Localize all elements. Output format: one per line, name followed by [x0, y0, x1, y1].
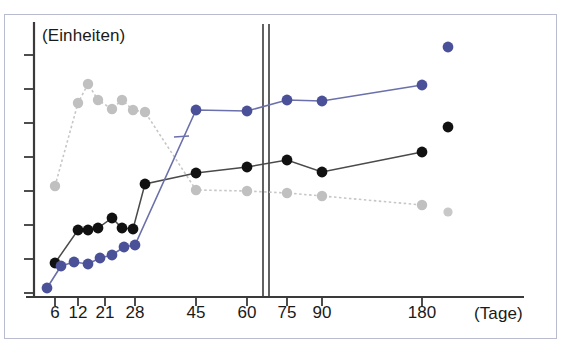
blue-series-error-bar: [174, 136, 189, 137]
black-series-points: [50, 147, 428, 269]
y-axis-label: (Einheiten): [42, 26, 125, 46]
black-series-line: [55, 152, 422, 263]
x-tick-label-28: 28: [126, 303, 145, 323]
black-series-extra-point: [443, 122, 454, 133]
x-tick-label-180: 180: [408, 303, 436, 323]
chart-plot-area: [0, 0, 564, 349]
gray-series-points: [50, 79, 427, 210]
gray-series-extra-point: [443, 207, 452, 216]
blue-series-extra-point: [443, 42, 454, 53]
x-tick-label-60: 60: [238, 303, 257, 323]
y-axis-ticks: [24, 55, 34, 293]
x-tick-label-6: 6: [50, 303, 59, 323]
x-tick-label-45: 45: [187, 303, 206, 323]
axis-break-marker: [263, 24, 269, 297]
x-tick-label-75: 75: [278, 303, 297, 323]
x-tick-label-12: 12: [69, 303, 88, 323]
blue-series-points: [42, 80, 428, 294]
x-axis-label: (Tage): [474, 304, 523, 324]
x-tick-label-90: 90: [313, 303, 332, 323]
x-tick-label-21: 21: [96, 303, 115, 323]
gray-series-line: [55, 84, 422, 205]
